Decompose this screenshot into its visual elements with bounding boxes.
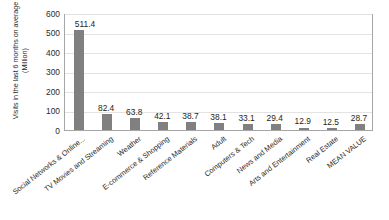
- y-axis-title-text: Visits in the last 6 months on average: [11, 2, 20, 119]
- y-axis-tick-label: 100: [22, 107, 60, 115]
- y-axis-tick-label: 200: [22, 88, 60, 96]
- bar-slot: [149, 15, 177, 130]
- y-axis-tick-label: 500: [22, 29, 60, 37]
- bar-slot: [346, 15, 374, 130]
- y-axis-tick-label: 400: [22, 49, 60, 57]
- bar[interactable]: [74, 30, 84, 130]
- bar-slot: [234, 15, 262, 130]
- y-axis-tick-labels: 6005004003002001000: [22, 0, 60, 140]
- y-axis-tick-label: 300: [22, 68, 60, 76]
- x-axis-category-label-text: Adult: [209, 135, 227, 152]
- bar-chart: Visits in the last 6 months on average (…: [0, 0, 389, 220]
- y-axis-tick-label: 600: [22, 10, 60, 18]
- x-axis-category-label-text: Reference Materials: [142, 135, 199, 182]
- bar-slot: [65, 15, 93, 130]
- bar[interactable]: [243, 124, 253, 130]
- x-axis-category-labels: Social Networks & Online...TV Movies and…: [0, 131, 389, 220]
